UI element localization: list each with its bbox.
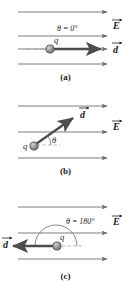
displacement-label-vector-arrowhead <box>10 237 12 240</box>
field-label: E <box>112 121 120 132</box>
displacement-label: d <box>3 239 9 250</box>
theta-label: θ = 180° <box>66 217 95 226</box>
field-label-vector-arrowhead <box>120 120 122 123</box>
displacement-label: d <box>80 109 86 120</box>
point-charge <box>53 242 61 250</box>
angle-arc <box>48 136 51 145</box>
point-charge <box>46 45 54 53</box>
panel-caption-a: (a) <box>0 72 131 82</box>
field-label-vector-arrowhead <box>120 215 122 218</box>
point-charge <box>30 142 38 150</box>
field-label: E <box>112 20 120 31</box>
charge-label: q <box>23 141 28 151</box>
panel-a: q θ = 0° E d (a) <box>0 0 131 90</box>
displacement-label: d <box>113 44 119 55</box>
physics-figure-electric-field-work: q θ = 0° E d (a) <box>0 0 131 290</box>
field-label: E <box>112 216 120 227</box>
theta-label: θ = 0° <box>57 24 78 33</box>
theta-label: θ <box>52 135 56 145</box>
charge-label: q <box>60 232 65 242</box>
panel-b: q θ d E (b) <box>0 90 131 185</box>
displacement-label-vector-arrowhead <box>87 107 89 110</box>
panel-caption-c: (c) <box>0 271 131 281</box>
panel-caption-b: (b) <box>0 166 131 176</box>
panel-c: q θ = 180° d E (c) <box>0 185 131 290</box>
field-label-vector-arrowhead <box>120 19 122 22</box>
charge-label: q <box>54 35 59 45</box>
displacement-label-vector-arrowhead <box>120 42 122 45</box>
